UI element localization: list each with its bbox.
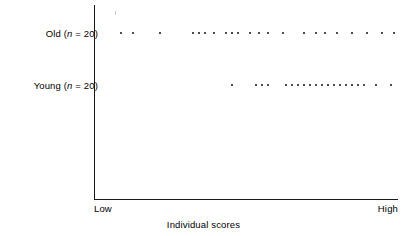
data-point (366, 32, 368, 34)
stray-artifact-mark (115, 11, 116, 15)
data-point (291, 84, 293, 86)
x-axis-title: Individual scores (0, 219, 407, 230)
data-point (192, 32, 194, 34)
row-label-young-prefix: Young ( (34, 80, 67, 91)
data-point (357, 84, 359, 86)
data-point (285, 84, 287, 86)
data-point (267, 84, 269, 86)
data-point (336, 32, 338, 34)
data-point (204, 32, 206, 34)
data-point (231, 32, 233, 34)
data-point (351, 32, 353, 34)
data-point (390, 84, 392, 86)
data-point (303, 32, 305, 34)
data-point (315, 84, 317, 86)
row-label-old-prefix: Old ( (46, 28, 67, 39)
data-point (393, 32, 395, 34)
data-point (213, 32, 215, 34)
x-axis-tick-high: High (378, 203, 398, 214)
data-point (363, 84, 365, 86)
dot-row-young (94, 84, 398, 88)
data-point (297, 84, 299, 86)
data-point (231, 84, 233, 86)
data-point (351, 84, 353, 86)
x-axis-line (94, 199, 398, 200)
row-label-young: Young (n = 20) (34, 80, 98, 91)
data-point (261, 84, 263, 86)
data-point (309, 84, 311, 86)
data-point (339, 84, 341, 86)
data-point (381, 32, 383, 34)
data-point (303, 84, 305, 86)
dot-plot-figure: Old (n = 20) Young (n = 20) Low High Ind… (0, 0, 407, 236)
data-point (249, 32, 251, 34)
data-point (282, 32, 284, 34)
data-point (327, 84, 329, 86)
row-label-old: Old (n = 20) (46, 28, 98, 39)
x-axis-tick-low: Low (94, 203, 112, 214)
data-point (345, 84, 347, 86)
data-point (159, 32, 161, 34)
data-point (267, 32, 269, 34)
data-point (225, 32, 227, 34)
data-point (315, 32, 317, 34)
data-point (120, 32, 122, 34)
data-point (237, 32, 239, 34)
data-point (255, 84, 257, 86)
data-point (333, 84, 335, 86)
data-point (132, 32, 134, 34)
data-point (258, 32, 260, 34)
data-point (321, 84, 323, 86)
dot-row-old (94, 32, 398, 36)
data-point (198, 32, 200, 34)
data-point (324, 32, 326, 34)
data-point (375, 84, 377, 86)
